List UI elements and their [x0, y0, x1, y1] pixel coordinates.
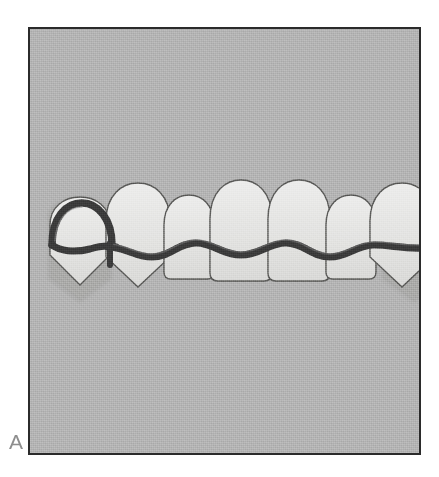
illustration-panel: [28, 27, 421, 455]
figure-panel-letter: A: [9, 429, 31, 455]
tooth-central-incisor-right: [164, 195, 214, 279]
dental-arch-illustration: [30, 29, 419, 453]
tooth-central-incisor-left: [326, 195, 376, 279]
figure-root: A: [0, 0, 439, 477]
tooth-lateral-incisor-left: [370, 183, 419, 287]
tooth-central-incisor-mid-right: [210, 180, 272, 281]
tooth-central-incisor-mid-left: [268, 180, 330, 281]
tooth-lateral-incisor-right: [106, 183, 170, 287]
